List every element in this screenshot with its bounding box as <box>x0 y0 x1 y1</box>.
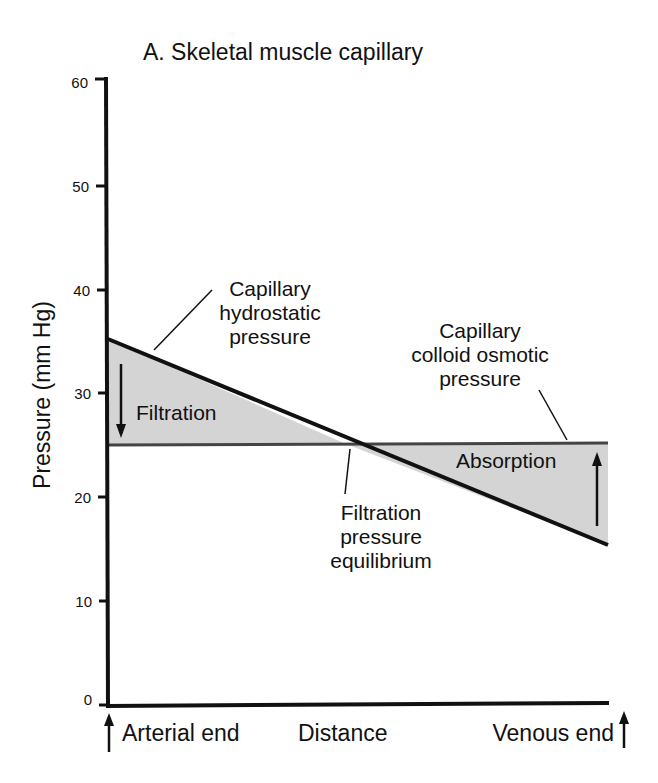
filtration-label: Filtration <box>136 401 217 424</box>
svg-text:60: 60 <box>71 74 88 91</box>
chart-title: A. Skeletal muscle capillary <box>143 39 423 65</box>
svg-text:Filtration: Filtration <box>341 501 422 524</box>
svg-text:40: 40 <box>73 282 90 299</box>
x-label-arterial: Arterial end <box>122 720 240 746</box>
svg-text:10: 10 <box>75 593 92 610</box>
svg-text:30: 30 <box>74 385 91 402</box>
svg-text:0: 0 <box>84 691 92 708</box>
svg-text:hydrostatic: hydrostatic <box>219 301 321 324</box>
absorption-label: Absorption <box>456 449 556 472</box>
svg-text:equilibrium: equilibrium <box>330 549 432 572</box>
x-label-venous: Venous end <box>492 720 614 746</box>
venous-end-arrow-icon <box>619 711 629 748</box>
svg-text:pressure: pressure <box>439 367 521 390</box>
svg-text:20: 20 <box>74 489 91 506</box>
svg-text:pressure: pressure <box>229 325 311 348</box>
colloid-leader-line <box>539 390 567 440</box>
equilibrium-label: Filtration pressure equilibrium <box>330 501 432 572</box>
x-axis-label: Distance <box>298 720 387 746</box>
colloid-osmotic-label: Capillary colloid osmotic pressure <box>411 319 549 390</box>
svg-text:colloid osmotic: colloid osmotic <box>411 343 549 366</box>
x-axis <box>106 703 609 706</box>
hydrostatic-label: Capillary hydrostatic pressure <box>219 277 321 348</box>
hydrostatic-leader-line <box>154 290 212 350</box>
svg-text:50: 50 <box>72 178 89 195</box>
svg-text:pressure: pressure <box>340 525 422 548</box>
arterial-end-arrow-icon <box>104 713 114 752</box>
capillary-pressure-chart: 0 10 20 30 40 50 60 A. Skeletal muscle c… <box>0 0 658 783</box>
equilibrium-leader-line <box>345 449 350 494</box>
y-axis-label: Pressure (mm Hg) <box>29 301 55 489</box>
svg-text:Capillary: Capillary <box>439 319 521 342</box>
y-tick-labels: 0 10 20 30 40 50 60 <box>71 74 92 708</box>
svg-text:Capillary: Capillary <box>229 277 311 300</box>
